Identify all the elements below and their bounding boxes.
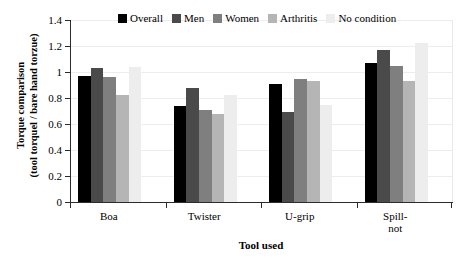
legend-swatch-icon bbox=[172, 14, 181, 23]
bar bbox=[116, 95, 129, 202]
y-axis-tick-mark bbox=[65, 176, 71, 177]
bar bbox=[269, 84, 282, 202]
legend-item: Overall bbox=[118, 12, 163, 24]
x-axis-tick-label: Twister bbox=[188, 210, 221, 222]
bar bbox=[78, 76, 91, 202]
x-axis-tick-label: Boa bbox=[100, 210, 118, 222]
bar-chart-figure: Torque comparison (tool torquel / bare h… bbox=[0, 0, 458, 263]
bar bbox=[294, 79, 307, 203]
bar bbox=[103, 77, 116, 202]
y-axis-tick-mark bbox=[65, 98, 71, 99]
bar bbox=[377, 50, 390, 202]
legend-swatch-icon bbox=[326, 14, 335, 23]
gridline bbox=[71, 46, 453, 47]
bar bbox=[320, 105, 333, 203]
y-axis-title-line2: (tool torquel / bare hand torzue) bbox=[28, 33, 41, 177]
legend-label: Arthritis bbox=[280, 12, 317, 24]
x-axis-tick-label-line1: U-grip bbox=[285, 210, 314, 222]
y-axis-tick-label: 1 bbox=[57, 67, 63, 78]
bar bbox=[129, 67, 142, 202]
y-axis-tick-mark bbox=[65, 150, 71, 151]
bar bbox=[307, 81, 320, 202]
y-axis-tick-mark bbox=[65, 124, 71, 125]
legend-item: Arthritis bbox=[268, 12, 317, 24]
y-axis-tick-label: 0.6 bbox=[48, 119, 62, 130]
y-axis-tick-label: 0.8 bbox=[48, 93, 62, 104]
y-axis-tick-mark bbox=[65, 46, 71, 47]
bar bbox=[282, 112, 295, 202]
y-axis-tick-mark bbox=[65, 20, 71, 21]
x-axis-tick-label-line2: not bbox=[383, 222, 407, 234]
x-axis-labels: BoaTwisterU-gripSpill-not bbox=[70, 203, 452, 239]
x-axis-tick-label-line1: Boa bbox=[100, 210, 118, 222]
legend-item: Men bbox=[172, 12, 204, 24]
bar bbox=[390, 66, 403, 203]
legend-label: Men bbox=[184, 12, 204, 24]
x-axis-tick-label-line1: Spill- bbox=[383, 210, 407, 222]
x-axis-tick-label: U-grip bbox=[285, 210, 314, 222]
x-axis-title: Tool used bbox=[70, 239, 452, 251]
bar bbox=[224, 95, 237, 202]
bar bbox=[199, 110, 212, 202]
x-axis-tick-label: Spill-not bbox=[383, 210, 407, 234]
bar bbox=[403, 81, 416, 202]
bar bbox=[174, 106, 187, 202]
y-axis-tick-label: 1.4 bbox=[48, 15, 62, 26]
legend-label: Women bbox=[225, 12, 259, 24]
y-axis-tick-label: 0.4 bbox=[48, 145, 62, 156]
legend-label: No condition bbox=[338, 12, 396, 24]
bar bbox=[415, 43, 428, 202]
bar bbox=[91, 68, 104, 202]
bar bbox=[212, 114, 225, 202]
y-axis-title: Torque comparison (tool torquel / bare h… bbox=[6, 0, 50, 210]
legend-label: Overall bbox=[130, 12, 163, 24]
legend-swatch-icon bbox=[213, 14, 222, 23]
y-axis-tick-label: 0.2 bbox=[48, 171, 62, 182]
x-axis-tick-mark bbox=[166, 203, 167, 208]
legend-swatch-icon bbox=[118, 14, 127, 23]
legend-item: No condition bbox=[326, 12, 396, 24]
y-axis-tick-label: 0 bbox=[57, 197, 63, 208]
plot-area: 00.20.40.60.811.21.4 bbox=[70, 20, 453, 203]
x-axis-tick-label-line1: Twister bbox=[188, 210, 221, 222]
legend: OverallMenWomenArthritisNo condition bbox=[118, 12, 396, 24]
bar bbox=[365, 63, 378, 202]
x-axis-tick-mark bbox=[70, 203, 71, 208]
x-axis-tick-mark bbox=[451, 203, 452, 208]
legend-item: Women bbox=[213, 12, 259, 24]
bar bbox=[186, 88, 199, 202]
x-axis-tick-mark bbox=[357, 203, 358, 208]
legend-swatch-icon bbox=[268, 14, 277, 23]
y-axis-tick-label: 1.2 bbox=[48, 41, 62, 52]
y-axis-title-line1: Torque comparison bbox=[16, 33, 29, 177]
y-axis-tick-mark bbox=[65, 72, 71, 73]
x-axis-tick-mark bbox=[261, 203, 262, 208]
